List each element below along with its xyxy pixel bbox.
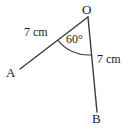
segment-ob bbox=[88, 17, 97, 112]
length-label-ob: 7 cm bbox=[97, 53, 121, 65]
angle-label-aob: 60° bbox=[66, 33, 83, 45]
vertex-label-o: O bbox=[82, 3, 91, 16]
vertex-label-a: A bbox=[6, 66, 15, 79]
vertex-label-b: B bbox=[92, 112, 101, 125]
length-label-oa: 7 cm bbox=[24, 26, 48, 38]
geometry-figure: O A B 7 cm 7 cm 60° bbox=[0, 0, 133, 131]
